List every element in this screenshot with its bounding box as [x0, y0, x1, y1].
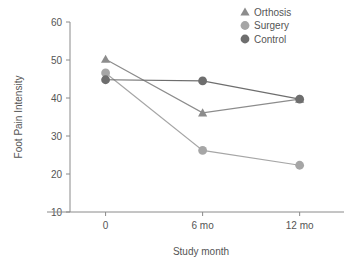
x-tick-label: 0	[103, 220, 109, 231]
data-point-marker	[101, 55, 110, 63]
y-tick-label: 50	[51, 55, 63, 66]
line-chart: 102030405060 06 mo12 mo Foot Pain Intens…	[0, 0, 345, 267]
chart-legend: OrthosisSurgeryControl	[240, 7, 291, 45]
series-orthosis	[101, 55, 304, 117]
y-axis-title: Foot Pain Intensity	[13, 76, 24, 159]
legend-label: Orthosis	[254, 7, 291, 18]
legend-label: Surgery	[254, 20, 289, 31]
legend-marker-icon	[241, 35, 250, 44]
axis-tick-marks	[66, 22, 300, 216]
legend-label: Control	[254, 34, 286, 45]
series-control	[101, 75, 304, 103]
legend-item-orthosis[interactable]: Orthosis	[240, 7, 291, 18]
legend-marker-icon	[241, 21, 250, 30]
legend-item-control[interactable]: Control	[241, 34, 287, 45]
data-point-marker	[101, 75, 110, 84]
x-axis-title: Study month	[173, 246, 229, 257]
data-point-marker	[295, 95, 304, 104]
x-tick-label: 12 mo	[286, 220, 314, 231]
x-tick-label: 6 mo	[192, 220, 215, 231]
y-tick-label: 20	[51, 169, 63, 180]
x-axis-tick-labels: 06 mo12 mo	[103, 220, 314, 231]
chart-figure: 102030405060 06 mo12 mo Foot Pain Intens…	[0, 0, 345, 267]
y-tick-label: 40	[51, 93, 63, 104]
legend-marker-icon	[240, 7, 249, 15]
series-line-orthosis	[106, 59, 300, 113]
y-axis-tick-labels: 102030405060	[51, 17, 63, 218]
data-point-marker	[198, 146, 207, 155]
data-point-marker	[295, 161, 304, 170]
y-tick-label: 30	[51, 131, 63, 142]
legend-item-surgery[interactable]: Surgery	[241, 20, 289, 31]
y-tick-label: 60	[51, 17, 63, 28]
data-point-marker	[198, 77, 207, 86]
data-series-layer	[101, 55, 304, 170]
